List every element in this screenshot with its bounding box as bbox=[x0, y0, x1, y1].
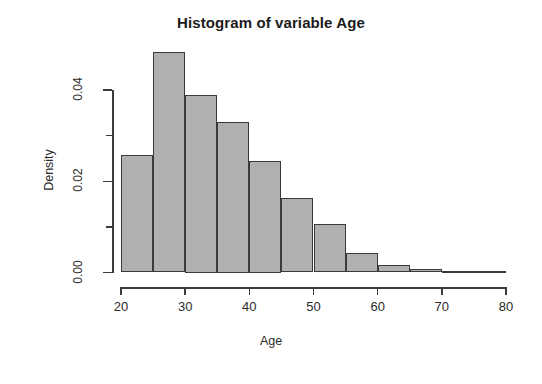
x-axis-tick-label: 40 bbox=[229, 299, 269, 314]
x-axis-tick-label: 70 bbox=[422, 299, 462, 314]
x-axis-tick-label: 30 bbox=[165, 299, 205, 314]
histogram-bar bbox=[217, 122, 249, 273]
y-axis-minor-tick bbox=[106, 135, 112, 137]
histogram-bar bbox=[410, 269, 442, 272]
histogram-bar bbox=[153, 52, 185, 273]
histogram-bar bbox=[442, 271, 474, 273]
x-axis-tick bbox=[505, 287, 507, 295]
x-axis-tick-label: 50 bbox=[294, 299, 334, 314]
histogram-bar bbox=[281, 198, 313, 272]
histogram-bar bbox=[121, 155, 153, 273]
y-axis-tick-label: 0.04 bbox=[71, 69, 85, 109]
histogram-bar bbox=[474, 271, 506, 273]
histogram-bar bbox=[346, 253, 378, 272]
x-axis-tick-label: 80 bbox=[486, 299, 526, 314]
y-axis-tick bbox=[103, 89, 112, 91]
histogram-bar bbox=[314, 224, 346, 272]
y-axis-minor-tick bbox=[106, 226, 112, 228]
y-axis-tick-label: 0.00 bbox=[71, 252, 85, 292]
x-axis-tick bbox=[313, 287, 315, 295]
histogram-bar bbox=[378, 265, 410, 272]
histogram-figure: Histogram of variable Age Density Age 0.… bbox=[0, 0, 542, 384]
x-axis-tick-label: 20 bbox=[101, 299, 141, 314]
y-axis-tick bbox=[103, 181, 112, 183]
y-axis-tick-label: 0.02 bbox=[71, 160, 85, 200]
x-axis-tick bbox=[441, 287, 443, 295]
x-axis-tick bbox=[184, 287, 186, 295]
plot-area: 0.000.020.04 20304050607080 bbox=[0, 0, 542, 384]
histogram-bar bbox=[185, 95, 217, 273]
y-axis-tick bbox=[103, 272, 112, 274]
x-axis-tick bbox=[120, 287, 122, 295]
y-axis-line bbox=[112, 90, 114, 273]
x-axis-tick bbox=[249, 287, 251, 295]
x-axis-tick-label: 60 bbox=[358, 299, 398, 314]
x-axis-tick bbox=[377, 287, 379, 295]
histogram-bar bbox=[249, 161, 281, 273]
